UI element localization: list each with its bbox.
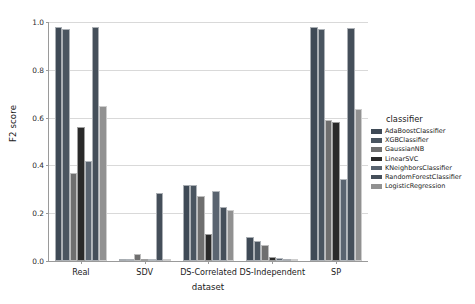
bar-slot [190,22,197,261]
bar-group: SP [304,22,368,261]
bar-group-bars [113,22,177,261]
bar-slot [85,22,92,261]
y-tick-label: 0.6 [32,113,44,122]
legend-swatch [371,157,382,162]
bar-slot [62,22,69,261]
bar[interactable] [276,258,283,261]
bar-slot [77,22,84,261]
legend-swatch [371,129,382,134]
bar[interactable] [156,193,163,261]
bar[interactable] [85,161,92,261]
bar-slot [291,22,298,261]
legend-label: LinearSVC [385,156,418,163]
bar-slot [92,22,99,261]
bar-slot [126,22,133,261]
x-axis-label: dataset [48,282,368,292]
bar-group-bars [304,22,368,261]
bar-slot [197,22,204,261]
bar[interactable] [220,207,227,261]
bar[interactable] [99,106,106,261]
legend-entry[interactable]: AdaBoostClassifier [371,127,475,136]
bar-group-bars [177,22,241,261]
bar-slot [310,22,317,261]
bar-slot [220,22,227,261]
bar[interactable] [77,127,84,261]
bar-slot [283,22,290,261]
bar[interactable] [261,245,268,261]
bar-slot [183,22,190,261]
legend-swatch [371,175,382,180]
legend-swatch [371,138,382,143]
bar[interactable] [355,109,362,261]
bar[interactable] [148,259,155,261]
legend-label: AdaBoostClassifier [385,128,445,135]
bar[interactable] [190,185,197,261]
x-tick-label: DS-Correlated [180,267,237,277]
bar[interactable] [283,259,290,261]
bar[interactable] [340,179,347,261]
bar-slot [99,22,106,261]
bar-slot [148,22,155,261]
x-tick-mark [336,261,337,264]
bar-slot [254,22,261,261]
bar-slot [156,22,163,261]
bar-group-bars [49,22,113,261]
y-tick-label: 0.8 [32,65,44,74]
legend-entry[interactable]: LinearSVC [371,155,475,164]
bar-group: DS-Correlated [177,22,241,261]
bar-groups: RealSDVDS-CorrelatedDS-IndependentSP [49,22,368,261]
bar[interactable] [197,196,204,261]
bar-slot [355,22,362,261]
bar[interactable] [62,29,69,261]
legend-swatch [371,147,382,152]
bar-slot [246,22,253,261]
x-tick-label: DS-Independent [239,267,305,277]
x-tick-mark [208,261,209,264]
bar[interactable] [291,259,298,261]
bar[interactable] [325,120,332,261]
bar[interactable] [332,122,339,261]
legend-label: RandomForestClassifier [385,174,462,181]
bar[interactable] [205,234,212,261]
bar-group: Real [49,22,113,261]
bar-slot [227,22,234,261]
bar[interactable] [246,237,253,261]
bar[interactable] [310,27,317,261]
bar[interactable] [163,259,170,261]
bar-slot [261,22,268,261]
legend-entry[interactable]: XGBClassifier [371,136,475,145]
bar[interactable] [119,259,126,261]
bar-slot [332,22,339,261]
x-tick-mark [81,261,82,264]
bar-group-bars [240,22,304,261]
bar-slot [276,22,283,261]
bar[interactable] [318,29,325,261]
legend-label: KNeighborsClassifier [385,165,452,172]
legend-entry[interactable]: GaussianNB [371,145,475,154]
y-tick-label: 0.0 [32,257,44,266]
legend-entry[interactable]: RandomForestClassifier [371,173,475,182]
bar[interactable] [70,173,77,261]
bar[interactable] [126,259,133,261]
bar[interactable] [347,28,354,261]
legend-title: classifier [386,114,475,124]
bar-slot [70,22,77,261]
bar[interactable] [55,27,62,261]
bar-group: SDV [113,22,177,261]
bar-group: DS-Independent [240,22,304,261]
legend-swatch [371,166,382,171]
legend-entry[interactable]: KNeighborsClassifier [371,164,475,173]
legend-label: GaussianNB [385,146,424,153]
bar[interactable] [227,210,234,261]
bar[interactable] [134,254,141,261]
bar-slot [318,22,325,261]
y-tick-label: 1.0 [32,18,44,27]
bar[interactable] [92,27,99,261]
bar-slot [340,22,347,261]
bar-slot [325,22,332,261]
bar[interactable] [183,185,190,261]
legend-entry[interactable]: LogisticRegression [371,182,475,191]
bar[interactable] [212,191,219,262]
x-tick-label: Real [72,267,89,277]
bar[interactable] [254,241,261,261]
